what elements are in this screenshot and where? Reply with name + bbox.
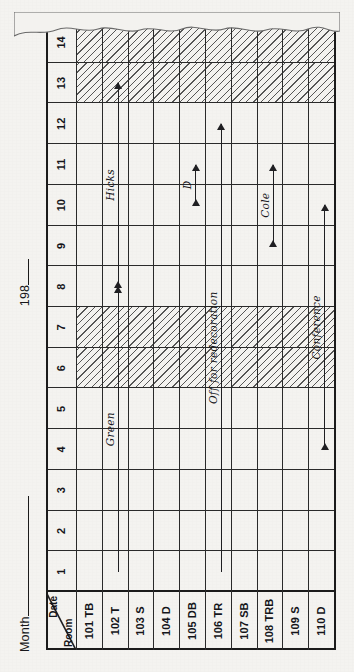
grid-hline [334,22,336,650]
room-header-108-trb[interactable]: 108 TRB [257,592,283,650]
booking-bar-hicks[interactable]: Hicks [118,83,119,287]
booking-label: Cole [259,193,271,218]
grid-hline [153,22,154,650]
room-header-103-s[interactable]: 103 S [128,592,154,650]
month-blank-rule [18,496,29,616]
bar-end-arrow [217,123,225,130]
date-header-10: 10 [46,185,76,226]
date-header-2: 2 [46,511,76,552]
booking-bar-cole[interactable]: Cole [273,165,274,246]
booking-bar-off-for-redecoration[interactable]: Off for redecoration [221,124,222,572]
torn-paper-edge [14,12,340,38]
grid-hline [102,22,103,650]
bar-end-arrow [321,204,329,211]
grid-hline [308,22,309,650]
room-header-105-db[interactable]: 105 DB [179,592,205,650]
grid-hline [257,22,258,650]
grid-vline [46,469,334,470]
grid-vline [46,648,334,650]
room-header-102-t[interactable]: 102 T [102,592,128,650]
grid-vline [46,62,334,63]
grid-hline [231,22,232,650]
booking-bar-green[interactable]: Green [118,287,119,572]
grid-vline [46,590,334,592]
room-header-106-tr[interactable]: 106 TR [205,592,231,650]
screenshot-page: Month198 Date Room 1234567891011121314 1 [0,0,354,672]
grid-vline [46,347,334,348]
grid-vline [46,102,334,103]
rotated-chart-wrapper: Month198 Date Room 1234567891011121314 1 [0,0,354,672]
date-header-8: 8 [46,266,76,307]
corner-header-cell: Date Room [46,592,76,650]
grid-vline [46,306,334,307]
booking-label: Conference [310,295,322,359]
date-header-5: 5 [46,388,76,429]
date-header-13: 13 [46,63,76,104]
corner-date-label: Date [48,596,59,618]
bar-end-arrow [269,164,277,171]
bar-end-arrow [114,82,122,89]
month-label: Month [18,616,32,652]
room-header-101-tb[interactable]: 101 TB [76,592,102,650]
grid-vline [46,428,334,429]
date-header-11: 11 [46,144,76,185]
grid-hline [282,22,283,650]
grid-vline [46,265,334,266]
corner-room-label: Room [63,619,74,647]
chart-title: Month198 [18,32,44,652]
occupancy-chart: Month198 Date Room 1234567891011121314 1 [14,14,340,658]
grid-vline [46,387,334,388]
grid-hline [76,22,77,650]
booking-label: D [181,181,193,190]
booking-bar-d[interactable]: D [195,165,196,206]
date-header-9: 9 [46,226,76,267]
grid-vline [46,225,334,226]
bar-end-arrow [192,164,200,171]
booking-label: Green [104,412,116,446]
bar-start-arrow [114,281,122,288]
bar-start-arrow [192,199,200,206]
date-header-4: 4 [46,429,76,470]
year-label: 198 [18,285,32,306]
booking-label: Off for redecoration [207,291,219,404]
date-header-7: 7 [46,307,76,348]
date-header-6: 6 [46,348,76,389]
grid-vline [46,550,334,551]
date-header-3: 3 [46,470,76,511]
room-header-107-sb[interactable]: 107 SB [231,592,257,650]
grid-vline [46,510,334,511]
date-header-12: 12 [46,103,76,144]
date-header-1: 1 [46,551,76,592]
grid-hline [128,22,129,650]
bar-start-arrow [321,444,329,451]
booking-bar-conference[interactable]: Conference [324,205,325,449]
chart-grid: Date Room 1234567891011121314 101 TB102 … [46,22,334,650]
room-header-104-d[interactable]: 104 D [153,592,179,650]
booking-label: Hicks [104,169,116,201]
grid-hline [179,22,180,650]
room-header-109-s[interactable]: 109 S [282,592,308,650]
grid-vline [46,143,334,144]
year-blank-rule [18,259,29,285]
bar-start-arrow [269,240,277,247]
grid-hline [46,22,48,650]
grid-hline [205,22,206,650]
room-header-110-d[interactable]: 110 D [308,592,334,650]
